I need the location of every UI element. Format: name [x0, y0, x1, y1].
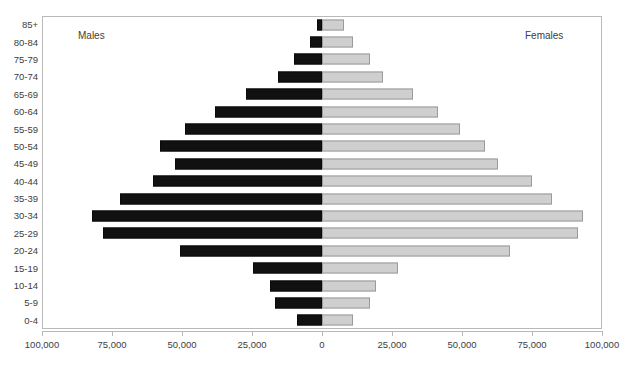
age-group-label: 45-49: [0, 155, 38, 172]
pyramid-row: [42, 312, 602, 329]
bar-male[interactable]: [153, 176, 322, 187]
age-group-label: 15-19: [0, 259, 38, 276]
pyramid-row: [42, 120, 602, 137]
bar-male[interactable]: [270, 280, 322, 291]
bar-male[interactable]: [246, 89, 322, 100]
x-axis-tick: [182, 331, 183, 336]
bar-female[interactable]: [322, 124, 460, 135]
x-axis-tick-label: 0: [319, 339, 324, 350]
bar-male[interactable]: [175, 158, 322, 169]
pyramid-row: [42, 86, 602, 103]
x-axis-tick-label: 25,000: [377, 339, 406, 350]
x-axis-tick: [462, 331, 463, 336]
bar-male[interactable]: [215, 106, 322, 117]
pyramid-row: [42, 173, 602, 190]
bar-male[interactable]: [160, 141, 322, 152]
pyramid-row: [42, 103, 602, 120]
pyramid-row: [42, 33, 602, 50]
pyramid-row: [42, 225, 602, 242]
bar-female[interactable]: [322, 280, 376, 291]
x-axis-tick: [112, 331, 113, 336]
pyramid-row: [42, 68, 602, 85]
bar-male[interactable]: [120, 193, 322, 204]
pyramid-row: [42, 294, 602, 311]
x-axis-tick-label: 50,000: [167, 339, 196, 350]
pyramid-row: [42, 190, 602, 207]
pyramid-row: [42, 277, 602, 294]
age-group-axis: 85+80-8475-7970-7465-6960-6455-5950-5445…: [0, 16, 38, 329]
bar-female[interactable]: [322, 71, 383, 82]
bar-female[interactable]: [322, 176, 532, 187]
age-group-label: 50-54: [0, 138, 38, 155]
age-group-label: 5-9: [0, 294, 38, 311]
bar-female[interactable]: [322, 245, 510, 256]
x-axis-tick: [252, 331, 253, 336]
pyramid-row: [42, 207, 602, 224]
x-axis-tick-label: 75,000: [97, 339, 126, 350]
bar-female[interactable]: [322, 54, 370, 65]
bar-male[interactable]: [253, 263, 322, 274]
series-label-males: Males: [78, 30, 105, 41]
bar-female[interactable]: [322, 89, 413, 100]
pyramid-row: [42, 138, 602, 155]
bar-female[interactable]: [322, 19, 344, 30]
bar-male[interactable]: [294, 54, 322, 65]
bar-male[interactable]: [180, 245, 322, 256]
bar-male[interactable]: [185, 124, 322, 135]
age-group-label: 25-29: [0, 225, 38, 242]
bar-male[interactable]: [275, 297, 322, 308]
age-group-label: 55-59: [0, 120, 38, 137]
pyramid-row: [42, 155, 602, 172]
x-axis-tick-label: 100,000: [25, 339, 59, 350]
age-group-label: 75-79: [0, 51, 38, 68]
bar-female[interactable]: [322, 228, 578, 239]
x-axis-tick-label: 50,000: [447, 339, 476, 350]
x-axis-tick-label: 25,000: [237, 339, 266, 350]
population-pyramid-chart: 85+80-8475-7970-7465-6960-6455-5950-5445…: [0, 0, 636, 373]
x-axis-tick: [392, 331, 393, 336]
pyramid-row: [42, 259, 602, 276]
x-axis-tick: [42, 331, 43, 336]
age-group-label: 30-34: [0, 207, 38, 224]
bar-female[interactable]: [322, 315, 353, 326]
age-group-label: 40-44: [0, 173, 38, 190]
bar-female[interactable]: [322, 263, 398, 274]
x-axis-tick: [532, 331, 533, 336]
age-group-label: 60-64: [0, 103, 38, 120]
bar-male[interactable]: [103, 228, 322, 239]
age-group-label: 70-74: [0, 68, 38, 85]
bar-female[interactable]: [322, 158, 498, 169]
bar-female[interactable]: [322, 210, 583, 221]
pyramid-row: [42, 16, 602, 33]
bar-female[interactable]: [322, 297, 370, 308]
age-group-label: 0-4: [0, 312, 38, 329]
bar-female[interactable]: [322, 193, 552, 204]
age-group-label: 35-39: [0, 190, 38, 207]
x-axis-tick-label: 75,000: [517, 339, 546, 350]
age-group-label: 20-24: [0, 242, 38, 259]
x-axis-tick: [602, 331, 603, 336]
pyramid-row: [42, 51, 602, 68]
bar-male[interactable]: [92, 210, 322, 221]
bar-male[interactable]: [278, 71, 322, 82]
pyramid-row: [42, 242, 602, 259]
age-group-label: 85+: [0, 16, 38, 33]
x-axis-tick-label: 100,000: [585, 339, 619, 350]
bar-female[interactable]: [322, 141, 485, 152]
bars-container: [42, 16, 602, 329]
age-group-label: 65-69: [0, 86, 38, 103]
x-axis-tick: [322, 331, 323, 336]
age-group-label: 10-14: [0, 277, 38, 294]
bar-male[interactable]: [310, 37, 322, 48]
series-label-females: Females: [525, 30, 563, 41]
bar-male[interactable]: [297, 315, 322, 326]
bar-female[interactable]: [322, 37, 353, 48]
bar-female[interactable]: [322, 106, 438, 117]
age-group-label: 80-84: [0, 33, 38, 50]
